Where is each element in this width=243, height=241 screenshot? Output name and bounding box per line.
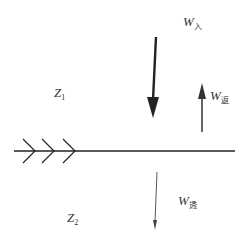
transmitted-arrow: [153, 172, 157, 230]
medium-2-label: Z2: [67, 208, 78, 227]
wave-diagram: W入 W返 W透 Z1 Z2: [0, 0, 243, 241]
transmitted-label: W透: [178, 191, 197, 210]
diagram-graphics: [0, 0, 243, 241]
reflected-label: W返: [210, 86, 229, 105]
incident-arrow: [147, 37, 159, 118]
medium-1-label: Z1: [54, 83, 65, 102]
reflected-arrow: [198, 83, 206, 132]
incident-label: W入: [183, 12, 202, 31]
